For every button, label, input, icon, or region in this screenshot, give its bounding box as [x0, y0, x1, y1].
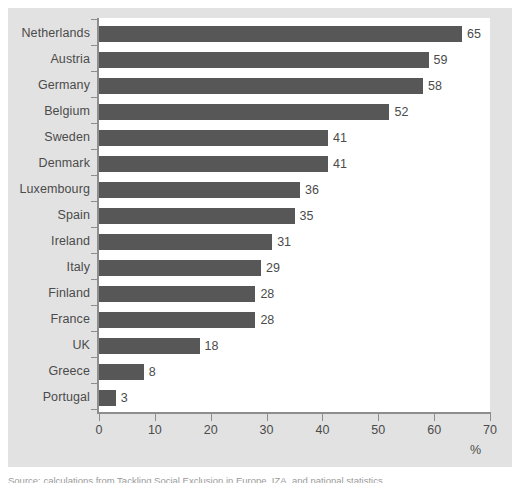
bar-value-label: 58 [428, 78, 442, 94]
bar-value-label: 28 [260, 286, 274, 302]
bar-value-label: 41 [333, 156, 347, 172]
bar-value-label: 52 [394, 104, 408, 120]
x-axis-tick-label: 40 [302, 423, 342, 437]
x-axis-tick [155, 414, 156, 421]
figure-root: Netherlands65Austria59Germany58Belgium52… [0, 0, 522, 483]
bar-row: UK18 [0, 334, 522, 360]
y-axis-tick [91, 227, 98, 228]
bar-value-label: 3 [121, 390, 128, 406]
category-label: Greece [0, 364, 90, 378]
y-axis-tick [91, 149, 98, 150]
y-axis-tick [91, 305, 98, 306]
source-caption: Source: calculations from Tackling Socia… [8, 472, 514, 483]
bar-row: Spain35 [0, 204, 522, 230]
bar-value-label: 28 [260, 312, 274, 328]
x-axis-tick [434, 414, 435, 421]
bar [99, 156, 328, 172]
bar-row: Greece8 [0, 360, 522, 386]
bar-value-label: 36 [305, 182, 319, 198]
x-axis-tick-label: 20 [191, 423, 231, 437]
bar [99, 26, 462, 42]
category-label: Austria [0, 52, 90, 66]
bar [99, 260, 261, 276]
bar-row: Luxembourg36 [0, 178, 522, 204]
category-label: Sweden [0, 130, 90, 144]
bar-rows: Netherlands65Austria59Germany58Belgium52… [0, 0, 522, 483]
percent-axis-label: % [470, 443, 481, 457]
x-axis-tick-label: 0 [79, 423, 119, 437]
y-axis-tick [91, 19, 98, 20]
category-label: Belgium [0, 104, 90, 118]
bar-value-label: 35 [300, 208, 314, 224]
x-axis-tick [267, 414, 268, 421]
y-axis-tick [91, 279, 98, 280]
x-axis-tick-label: 10 [135, 423, 175, 437]
y-axis-tick [91, 357, 98, 358]
bar-value-label: 41 [333, 130, 347, 146]
bar-row: Portugal3 [0, 386, 522, 412]
bar-row: France28 [0, 308, 522, 334]
category-label: Netherlands [0, 26, 90, 40]
bar-value-label: 59 [434, 52, 448, 68]
bar-row: Netherlands65 [0, 22, 522, 48]
bar-value-label: 8 [149, 364, 156, 380]
bar-row: Finland28 [0, 282, 522, 308]
category-label: Italy [0, 260, 90, 274]
x-axis-tick-label: 50 [358, 423, 398, 437]
bar-row: Belgium52 [0, 100, 522, 126]
x-axis-tick [378, 414, 379, 421]
y-axis-tick [91, 201, 98, 202]
category-label: UK [0, 338, 90, 352]
bar [99, 78, 423, 94]
category-label: Ireland [0, 234, 90, 248]
bar [99, 182, 300, 198]
bar [99, 364, 144, 380]
bar-value-label: 18 [205, 338, 219, 354]
category-label: Germany [0, 78, 90, 92]
bar [99, 130, 328, 146]
x-axis-tick-label: 60 [414, 423, 454, 437]
category-label: Spain [0, 208, 90, 222]
bar [99, 338, 200, 354]
bar [99, 390, 116, 406]
bar [99, 286, 255, 302]
bar [99, 52, 429, 68]
y-axis-tick [91, 383, 98, 384]
y-axis-tick [91, 71, 98, 72]
category-label: Luxembourg [0, 182, 90, 196]
bar [99, 234, 272, 250]
bar-row: Sweden41 [0, 126, 522, 152]
bar-row: Germany58 [0, 74, 522, 100]
bar-row: Ireland31 [0, 230, 522, 256]
bar [99, 208, 295, 224]
bar-value-label: 65 [467, 26, 481, 42]
category-label: Portugal [0, 390, 90, 404]
category-label: Finland [0, 286, 90, 300]
y-axis-tick [91, 331, 98, 332]
category-label: Denmark [0, 156, 90, 170]
y-axis-tick [91, 175, 98, 176]
x-axis-tick [211, 414, 212, 421]
bar [99, 104, 389, 120]
bar-value-label: 29 [266, 260, 280, 276]
y-axis-tick [91, 45, 98, 46]
bar-row: Denmark41 [0, 152, 522, 178]
bar-row: Austria59 [0, 48, 522, 74]
x-axis-tick-label: 70 [470, 423, 510, 437]
bar-row: Italy29 [0, 256, 522, 282]
y-axis-tick [91, 97, 98, 98]
x-axis-tick-label: 30 [247, 423, 287, 437]
x-axis-tick [490, 414, 491, 421]
y-axis-tick [91, 253, 98, 254]
y-axis-tick [91, 409, 98, 410]
y-axis-tick [91, 123, 98, 124]
x-axis-tick [99, 414, 100, 421]
bar [99, 312, 255, 328]
bar-value-label: 31 [277, 234, 291, 250]
category-label: France [0, 312, 90, 326]
x-axis-tick [322, 414, 323, 421]
